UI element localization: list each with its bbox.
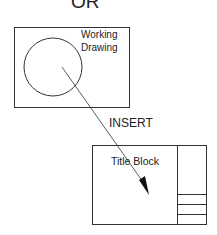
- circle-shape: [24, 38, 82, 96]
- drawing-label: Drawing: [81, 42, 118, 53]
- insert-arrow: INSERT: [62, 67, 153, 195]
- insert-diagram: OR Working Drawing INSERT Title Block: [0, 0, 217, 235]
- title-block-label: Title Block: [111, 155, 160, 167]
- title-block-box: Title Block: [93, 146, 207, 225]
- insert-label: INSERT: [109, 116, 153, 130]
- or-heading: OR: [71, 0, 100, 12]
- working-label: Working: [81, 29, 118, 40]
- working-drawing-box: Working Drawing: [15, 28, 130, 108]
